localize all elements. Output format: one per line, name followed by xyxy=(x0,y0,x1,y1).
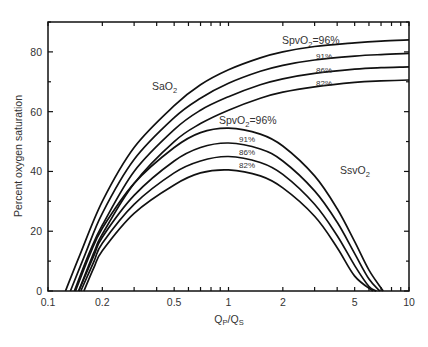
y-tick-label: 80 xyxy=(30,46,42,58)
sa-91-label: 91% xyxy=(316,52,332,61)
curve-ssvo2-6 xyxy=(81,156,377,291)
x-axis-title: QP/QS xyxy=(214,313,243,327)
sa-82-label: 82% xyxy=(316,79,332,88)
y-tick-label: 0 xyxy=(36,285,42,297)
x-tick-labels: 0.10.20.512510 xyxy=(41,296,415,308)
ssv-86-label: 86% xyxy=(239,148,255,157)
chart: 0.10.20.512510 020406080 QP/QS Percent o… xyxy=(0,0,428,347)
x-tick-label: 0.5 xyxy=(167,296,182,308)
x-tick-label: 1 xyxy=(226,296,232,308)
y-axis-title: Percent oxygen saturation xyxy=(12,95,24,217)
curve-ssvo2-7 xyxy=(84,170,373,291)
spvo2-mid-label: SpvO2=96% xyxy=(219,114,277,129)
curve-sao2-3 xyxy=(79,80,409,291)
ssv-91-label: 91% xyxy=(239,135,255,144)
y-tick-labels: 020406080 xyxy=(30,46,42,297)
curve-ssvo2-5 xyxy=(79,143,380,291)
x-tick-label: 0.2 xyxy=(95,296,110,308)
y-tick-label: 40 xyxy=(30,165,42,177)
x-tick-label: 5 xyxy=(352,296,358,308)
x-tick-label: 2 xyxy=(280,296,286,308)
sao2-label: SaO2 xyxy=(152,80,177,95)
sa-86-label: 86% xyxy=(316,66,332,75)
curve-sao2-2 xyxy=(74,67,409,291)
spvo2-top-label: SpvO2=96% xyxy=(282,34,340,49)
y-tick-label: 20 xyxy=(30,225,42,237)
ssvo2-label: SsvO2 xyxy=(340,164,370,179)
x-tick-label: 10 xyxy=(403,296,415,308)
ssv-82-label: 82% xyxy=(239,161,255,170)
x-tick-label: 0.1 xyxy=(41,296,56,308)
y-tick-label: 60 xyxy=(30,106,42,118)
